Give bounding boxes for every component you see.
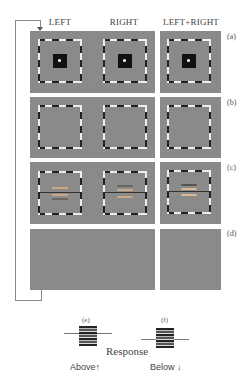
grating-bar [117, 189, 133, 191]
grating-bar [181, 188, 197, 190]
grating-bar [181, 194, 197, 196]
reference-line [169, 191, 209, 192]
dashed-frame [167, 39, 211, 83]
dashed-frame [103, 39, 147, 83]
panel-c-both [160, 162, 221, 224]
arrow-up-icon: ↑ [96, 362, 101, 372]
fixation-square [182, 54, 196, 68]
grating-bar [117, 185, 133, 187]
loop-line-bottom [15, 300, 42, 301]
response-above-text: Above [70, 362, 96, 372]
panel-a-left-right [30, 31, 155, 93]
dashed-frame [103, 171, 147, 215]
loop-line-up [41, 290, 42, 301]
row-label-b: (b) [227, 98, 236, 107]
response-label-e: (e) [82, 316, 90, 324]
dashed-frame [167, 170, 211, 214]
panel-d-left-right [30, 229, 155, 290]
response-label-f: (f) [161, 316, 168, 324]
dashed-frame [38, 105, 82, 149]
reference-line [105, 192, 145, 193]
panel-c-left-right [30, 162, 155, 224]
grating-bar [52, 194, 68, 196]
dashed-frame [167, 105, 211, 149]
arrow-down-icon: ↓ [177, 362, 182, 372]
row-label-d: (d) [227, 229, 236, 238]
grating-above [79, 326, 97, 346]
dashed-frame [38, 39, 82, 83]
fixation-square [53, 54, 67, 68]
reference-line [40, 192, 80, 193]
grating-below [156, 328, 174, 348]
row-label-a: (a) [227, 32, 236, 41]
column-header-right: RIGHT [104, 17, 144, 27]
column-header-left: LEFT [40, 17, 80, 27]
grating-bar [52, 187, 68, 189]
panel-a-both [160, 31, 221, 93]
fixation-square [118, 54, 132, 68]
row-label-c: (c) [227, 163, 236, 172]
grating-bar [181, 184, 197, 186]
response-above: Above↑ [70, 362, 100, 372]
response-title: Response [106, 345, 148, 357]
column-header-both: LEFT+RIGHT [156, 17, 226, 27]
grating-bar [117, 196, 133, 198]
dashed-frame [38, 171, 82, 215]
loop-line-left [15, 20, 16, 301]
dashed-frame [103, 105, 147, 149]
loop-line-top [15, 20, 41, 21]
response-below-text: Below [150, 362, 175, 372]
panel-b-both [160, 97, 221, 158]
grating-bar [52, 198, 68, 200]
panel-d-both [160, 229, 221, 290]
panel-b-left-right [30, 97, 155, 158]
response-below: Below ↓ [150, 362, 182, 372]
